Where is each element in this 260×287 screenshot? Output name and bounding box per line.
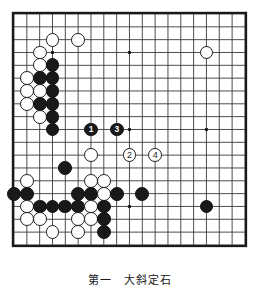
- figure-caption: 第一 大斜定石: [0, 271, 260, 287]
